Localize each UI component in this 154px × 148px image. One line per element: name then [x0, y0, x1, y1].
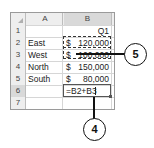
row-number[interactable]: 5	[11, 73, 26, 85]
callout-5-badge: 5	[124, 43, 147, 66]
cell-a2[interactable]: East	[26, 37, 63, 49]
cell-a7[interactable]	[26, 97, 63, 109]
row-number[interactable]: 1	[11, 25, 26, 37]
column-header-b[interactable]: B	[64, 13, 112, 25]
cell-a3[interactable]: West	[26, 49, 63, 61]
row-number[interactable]: 4	[11, 61, 26, 73]
active-cell-border	[63, 84, 111, 97]
select-all-corner[interactable]	[11, 13, 26, 25]
callout-4-badge: 4	[83, 118, 106, 141]
row-number[interactable]: 2	[11, 37, 26, 49]
cell-b7[interactable]	[64, 97, 112, 109]
row-number[interactable]: 6	[11, 85, 26, 97]
row-number[interactable]: 3	[11, 49, 26, 61]
callout-4-leader-line	[93, 97, 95, 119]
cell-a6[interactable]	[26, 85, 63, 97]
callout-5-leader-line	[76, 53, 125, 55]
text-cursor	[95, 87, 96, 95]
fill-handle[interactable]	[109, 95, 112, 98]
cell-b4[interactable]: $ 150,000	[64, 61, 112, 73]
cell-a1[interactable]	[26, 25, 63, 37]
row-number[interactable]: 7	[11, 97, 26, 109]
column-header-a[interactable]: A	[26, 13, 63, 25]
currency-symbol: $	[66, 61, 71, 73]
cell-a4[interactable]: North	[26, 61, 63, 73]
cell-value: 150,000	[78, 61, 109, 73]
cell-a5[interactable]: South	[26, 73, 63, 85]
table-row: 7	[11, 97, 114, 110]
copy-marquee-divider	[63, 47, 111, 48]
